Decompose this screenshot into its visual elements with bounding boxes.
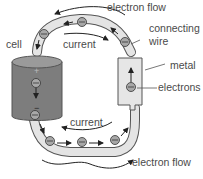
metal-label: metal bbox=[170, 59, 196, 71]
cell-plus-sign: + bbox=[34, 66, 39, 76]
connecting-label: connecting bbox=[149, 22, 200, 34]
electron-flow-arrow-bottom bbox=[42, 160, 133, 168]
circuit-diagram: + − electron flow con bbox=[0, 0, 203, 179]
cell-label: cell bbox=[6, 38, 22, 50]
metal-block bbox=[118, 58, 142, 110]
electron-flow-label-bottom: electron flow bbox=[132, 156, 191, 168]
electron-flow-label-top: electron flow bbox=[107, 1, 166, 13]
current-label-bottom: current bbox=[70, 116, 103, 128]
wire-label: wire bbox=[148, 35, 168, 47]
electrons-label: electrons bbox=[158, 81, 201, 93]
current-label-top: current bbox=[63, 38, 96, 50]
